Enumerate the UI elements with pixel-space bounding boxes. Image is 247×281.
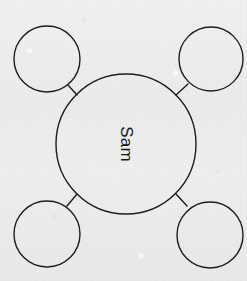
satellite-node-circle-top-left[interactable] xyxy=(14,26,80,92)
satellite-node-circle-bottom-left[interactable] xyxy=(14,201,80,267)
satellite-node-circle-bottom-right[interactable] xyxy=(177,202,243,268)
connector-center-to-bottom-right xyxy=(176,194,187,206)
satellite-node-circle-top-right[interactable] xyxy=(179,27,243,91)
center-node-label: Sam xyxy=(116,126,136,162)
connector-center-to-top-left xyxy=(68,85,77,95)
connector-center-to-top-right xyxy=(176,84,188,95)
connector-center-to-bottom-left xyxy=(67,194,77,206)
diagram-canvas: Sam xyxy=(0,0,247,281)
